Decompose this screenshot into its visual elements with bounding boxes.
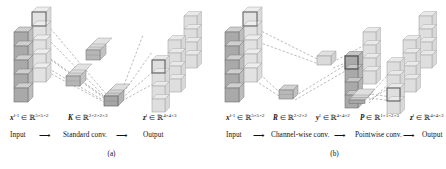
panel-b-input-stack-back [243, 7, 262, 82]
panel-a-output-stack-back [184, 12, 202, 69]
panel-a-kernel-block-top [86, 38, 112, 60]
panel-b-arrow-2: ⟶ [334, 132, 345, 140]
panel-a-kernel-block-mid [66, 64, 92, 86]
panel-b-depthwise-separable-convolution: xl-1 ∈ ℝ5×5×2 R ∈ ℝ2×2×2 yl ∈ ℝ4×4×2 P ∈… [223, 0, 446, 169]
panel-b-output-stack-front [387, 58, 405, 115]
panel-a-input-stack-back [32, 7, 51, 82]
panel-b-input-stack-front [225, 27, 244, 102]
panel-a-flow-conv: Standard conv. [63, 131, 107, 138]
panel-a-output-stack-front [152, 56, 170, 113]
figure-root: xl-1 ∈ ℝ5×5×2 K ∈ ℝ2×2×2×3 zl ∈ ℝ4×4×3 I… [0, 0, 446, 169]
panel-a-flow-input: Input [10, 131, 26, 138]
panel-b-depthwise-kernel-upper [317, 51, 336, 65]
panel-b-depthwise-kernel-lower [279, 85, 298, 99]
panel-a-arrow-1: ⟶ [39, 132, 50, 140]
panel-b-flow-row: Input ⟶ Channel-wise conv. ⟶ Pointwise c… [223, 131, 446, 145]
panel-b-depthwise-math: R ∈ ℝ2×2×2 [273, 114, 307, 122]
panel-a-caption: (a) [0, 150, 223, 158]
panel-b-caption: (b) [223, 150, 446, 158]
panel-a-flow-row: Input ⟶ Standard conv. ⟶ Output [0, 131, 223, 145]
panel-a-diagram [0, 0, 223, 114]
panel-a-kernel-math: K ∈ ℝ2×2×2×3 [68, 114, 107, 122]
panel-a-input-math: xl-1 ∈ ℝ5×5×2 [10, 114, 49, 122]
panel-b-output-stack-mid [403, 36, 421, 93]
panel-b-diagram [223, 0, 446, 114]
panel-b-intermediate-math: yl ∈ ℝ4×4×2 [316, 114, 350, 122]
panel-b-flow-input: Input [226, 131, 242, 138]
panel-b-input-math: xl-1 ∈ ℝ5×5×2 [226, 114, 265, 122]
panel-b-flow-output: Output [422, 131, 443, 138]
panel-a-standard-convolution: xl-1 ∈ ℝ5×5×2 K ∈ ℝ2×2×2×3 zl ∈ ℝ4×4×3 I… [0, 0, 223, 169]
panel-b-arrow-3: ⟶ [403, 132, 414, 140]
panel-b-flow-pointwise: Pointwise conv. [355, 131, 402, 138]
panel-a-arrow-2: ⟶ [116, 132, 127, 140]
panel-b-math-row: xl-1 ∈ ℝ5×5×2 R ∈ ℝ2×2×2 yl ∈ ℝ4×4×2 P ∈… [223, 114, 446, 128]
panel-b-output-math: zl ∈ ℝ4×4×3 [410, 114, 444, 122]
panel-b-output-stack-back [419, 12, 437, 69]
panel-a-input-stack-front [14, 27, 33, 102]
panel-a-math-row: xl-1 ∈ ℝ5×5×2 K ∈ ℝ2×2×2×3 zl ∈ ℝ4×4×3 [0, 114, 223, 128]
panel-a-output-math: zl ∈ ℝ4×4×3 [143, 114, 177, 122]
panel-b-pointwise-math: P ∈ ℝ1×1×2×3 [360, 114, 399, 122]
panel-b-flow-channelwise: Channel-wise conv. [271, 131, 329, 138]
panel-b-arrow-1: ⟶ [253, 132, 264, 140]
panel-a-output-stack-mid [168, 36, 186, 93]
panel-a-flow-output: Output [143, 131, 164, 138]
panel-b-intermediate-stack-back [363, 28, 381, 85]
